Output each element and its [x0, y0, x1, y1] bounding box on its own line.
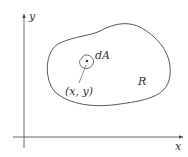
point-dot — [86, 60, 89, 63]
point-label: (x, y) — [65, 85, 93, 98]
x-axis-label: x — [175, 140, 182, 153]
area-element-label: dA — [95, 49, 110, 62]
region-label: R — [137, 75, 146, 88]
double-integral-region-diagram: y x dA (x, y) R — [0, 0, 188, 157]
y-axis-label: y — [28, 10, 36, 23]
